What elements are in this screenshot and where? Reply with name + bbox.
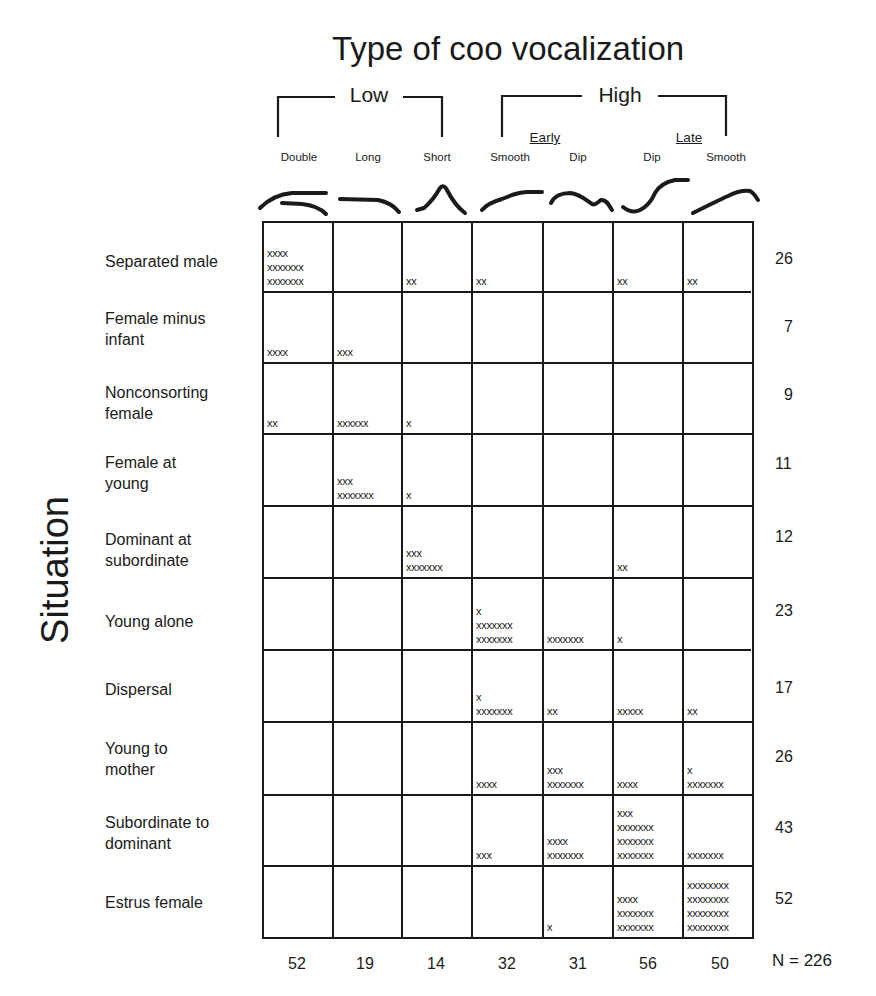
cell-marks: xxxx — [267, 345, 288, 359]
row-label: Nonconsorting female — [105, 382, 255, 424]
cell-marks: xxx — [337, 345, 353, 359]
cell-marks: xxx — [476, 848, 492, 862]
cell-marks: xxx xxxxxxx — [406, 546, 442, 574]
cell-marks: xxx xxxxxxx xxxxxxx xxxxxxx — [617, 806, 653, 862]
cell-marks: xx — [547, 704, 557, 718]
row-label: Separated male — [105, 251, 255, 272]
cell-marks: xxxx xxxxxxx xxxxxxx — [617, 892, 653, 934]
row-total: 7 — [784, 318, 793, 336]
row-total: 23 — [775, 602, 793, 620]
short-peak-contour-icon — [417, 186, 465, 213]
cell-marks: xxxx xxxxxxx — [547, 834, 583, 862]
table-grid — [263, 222, 753, 938]
cell-marks: x xxxxxxx — [687, 763, 723, 791]
row-total: 12 — [775, 528, 793, 546]
cell-marks: xxxxxxx — [547, 632, 583, 646]
row-total: 17 — [775, 679, 793, 697]
row-label: Female minus infant — [105, 308, 255, 350]
row-label: Dispersal — [105, 679, 255, 700]
cell-marks: x — [406, 488, 411, 502]
row-label: Subordinate to dominant — [105, 812, 255, 854]
column-header-double: Double — [281, 151, 317, 163]
cell-marks: xxxxxxxx xxxxxxxx xxxxxxxx xxxxxxxx — [687, 878, 729, 934]
cell-marks: xx — [687, 274, 697, 288]
early-dip-contour-icon — [551, 193, 612, 210]
row-total: 11 — [775, 455, 792, 473]
cell-marks: xx — [687, 704, 697, 718]
double-contour-icon — [260, 193, 326, 214]
cell-marks: xxxx — [476, 777, 497, 791]
row-label: Female at young — [105, 452, 255, 494]
column-total: 32 — [498, 955, 516, 973]
column-header-early-smooth: Smooth — [490, 151, 530, 163]
column-total: 14 — [427, 955, 445, 973]
row-label: Dominant at subordinate — [105, 529, 255, 571]
cell-marks: xx — [617, 274, 627, 288]
column-total: 52 — [288, 955, 306, 973]
row-label: Estrus female — [105, 892, 255, 913]
cell-marks: xxxxxxx — [687, 848, 723, 862]
long-contour-icon — [340, 199, 399, 212]
cell-marks: xx — [476, 274, 486, 288]
early-smooth-contour-icon — [482, 192, 542, 210]
column-total: 19 — [356, 955, 374, 973]
row-label: Young to mother — [105, 738, 255, 780]
cell-marks: xx — [406, 274, 416, 288]
column-total: 50 — [711, 955, 729, 973]
cell-marks: xx — [617, 560, 627, 574]
row-total: 43 — [775, 819, 793, 837]
row-total: 52 — [775, 890, 793, 908]
cell-marks: xxx xxxxxxx — [547, 763, 583, 791]
cell-marks: xxx xxxxxxx — [337, 474, 373, 502]
cell-marks: x — [617, 632, 622, 646]
contour-icons — [260, 180, 758, 214]
column-header-long: Long — [355, 151, 381, 163]
cell-marks: x xxxxxxx xxxxxxx — [476, 604, 512, 646]
column-total: 56 — [639, 955, 657, 973]
cell-marks: xx — [267, 416, 277, 430]
group-label-low: Low — [344, 83, 395, 107]
cell-marks: xxxx — [617, 777, 638, 791]
y-axis-title: Situation — [34, 496, 77, 644]
cell-marks: xxxxxx — [337, 416, 368, 430]
column-header-late-smooth: Smooth — [706, 151, 746, 163]
column-header-late-dip: Dip — [643, 151, 660, 163]
column-header-early-dip: Dip — [569, 151, 586, 163]
row-label: Young alone — [105, 611, 255, 632]
group-label-high: High — [592, 83, 647, 107]
cell-marks: x — [547, 920, 552, 934]
cell-marks: xxxx xxxxxxx xxxxxxx — [267, 246, 303, 288]
subgroup-label-early: Early — [530, 130, 561, 145]
late-smooth-contour-icon — [693, 191, 758, 213]
row-total: 26 — [775, 250, 793, 268]
cell-marks: x xxxxxxx — [476, 690, 512, 718]
cell-marks: xxxxx — [617, 704, 643, 718]
late-dip-contour-icon — [623, 180, 688, 211]
column-header-short: Short — [423, 151, 451, 163]
column-total: 31 — [569, 955, 587, 973]
subgroup-label-late: Late — [676, 130, 702, 145]
row-total: 26 — [775, 748, 793, 766]
cell-marks: x — [406, 416, 411, 430]
row-total: 9 — [784, 386, 793, 404]
grand-total: N = 226 — [772, 951, 832, 971]
